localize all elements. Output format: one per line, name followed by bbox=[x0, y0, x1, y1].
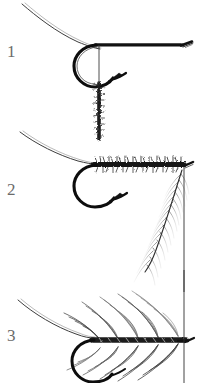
panel-1 bbox=[22, 3, 193, 140]
hook-eye bbox=[181, 42, 193, 48]
hook-bend bbox=[74, 45, 113, 87]
dubbing-noodle bbox=[94, 83, 105, 139]
leader-line bbox=[18, 299, 95, 338]
hook-shank bbox=[95, 44, 183, 45]
leader-line bbox=[22, 3, 101, 49]
hackle-feather bbox=[134, 170, 189, 285]
fly-tying-illustration-plate: 1 2 3 bbox=[0, 0, 201, 383]
illustration-canvas bbox=[0, 0, 201, 383]
step-number-3: 3 bbox=[7, 327, 16, 344]
step-number-1: 1 bbox=[7, 43, 16, 60]
leader-line bbox=[20, 131, 97, 164]
step-number-2: 2 bbox=[7, 181, 16, 198]
hook-bend bbox=[74, 165, 114, 207]
panel-3 bbox=[18, 270, 194, 383]
dubbed-body bbox=[92, 338, 186, 342]
dubbed-body bbox=[94, 156, 184, 173]
panel-2 bbox=[20, 131, 193, 292]
